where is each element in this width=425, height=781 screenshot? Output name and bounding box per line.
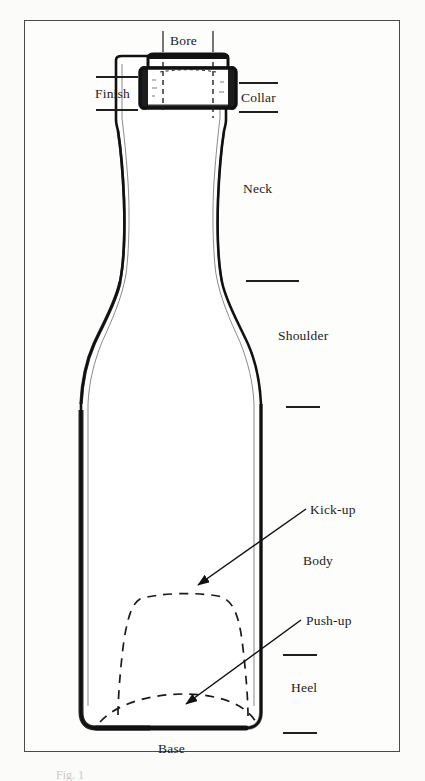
label-bore: Bore bbox=[170, 33, 197, 49]
label-shoulder: Shoulder bbox=[278, 328, 328, 344]
label-heel: Heel bbox=[291, 680, 317, 696]
label-push-up: Push-up bbox=[306, 613, 352, 629]
label-finish: Finish bbox=[95, 86, 130, 102]
bottle-outline bbox=[81, 56, 261, 728]
label-neck: Neck bbox=[243, 181, 272, 197]
label-collar: Collar bbox=[241, 90, 276, 106]
label-base: Base bbox=[158, 741, 185, 757]
figure-caption: Fig. 1 bbox=[56, 768, 84, 781]
figure-page: Bore Finish Collar Neck Shoulder Kick-up… bbox=[0, 0, 425, 781]
bottle-diagram bbox=[0, 0, 425, 781]
label-body: Body bbox=[303, 553, 333, 569]
label-kick-up: Kick-up bbox=[310, 502, 356, 518]
bottle-finish bbox=[140, 54, 236, 118]
